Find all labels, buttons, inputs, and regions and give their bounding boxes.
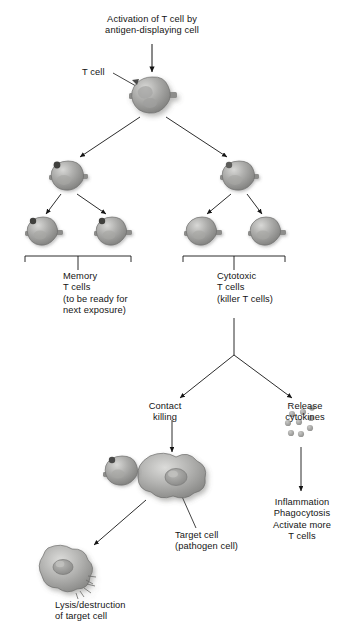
target-cell-label: Target cell (pathogen cell) [175,530,238,553]
t-cell-label: T cell [82,67,105,78]
cytotoxic-t-cells-label: Cytotoxic T cells (killer T cells) [217,271,273,305]
cytotoxic-t-cell-right [248,217,286,245]
lysis-label: Lysis/destruction of target cell [55,600,126,623]
memory-t-cells-label: Memory T cells (to be ready for next exp… [63,271,128,317]
cytotoxic-t-cell-left [184,217,222,245]
attacking-t-cell [103,456,138,485]
t-cell-activation-diagram: Activation of T cell by antigen-displayi… [0,0,352,633]
memory-parent-t-cell [49,161,88,190]
contact-killing-label: Contact killing [130,401,200,424]
cytotoxic-parent-t-cell [220,161,259,190]
outcomes-label: Inflammation Phagocytosis Activate more … [254,497,350,543]
memory-t-cell-right [94,217,132,245]
activated-t-cell [129,77,177,113]
activation-title: Activation of T cell by antigen-displayi… [72,14,232,37]
release-cytokines-label: Release cytokines [268,401,342,424]
target-cell [138,453,206,498]
lysed-cell [39,545,96,599]
memory-t-cell-left [25,217,63,245]
